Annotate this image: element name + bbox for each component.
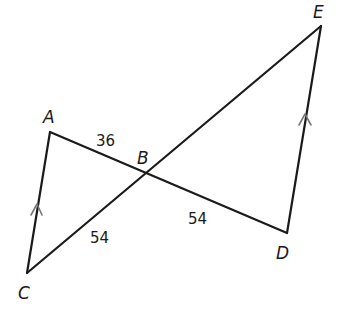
- segment-ce: [27, 26, 321, 273]
- measure-bd: 54: [188, 210, 207, 228]
- vertex-label-b: B: [137, 148, 149, 168]
- segment-ac: [27, 132, 50, 273]
- measure-ab: 36: [96, 132, 115, 150]
- vertex-label-d: D: [276, 243, 289, 263]
- triangle-diagram: A B C D E 36 54 54: [0, 0, 347, 315]
- measure-bc: 54: [90, 229, 109, 247]
- segment-de: [287, 26, 321, 233]
- vertex-label-a: A: [42, 107, 55, 127]
- segment-ad: [50, 132, 287, 233]
- vertex-label-c: C: [18, 283, 30, 303]
- vertex-label-e: E: [313, 2, 324, 22]
